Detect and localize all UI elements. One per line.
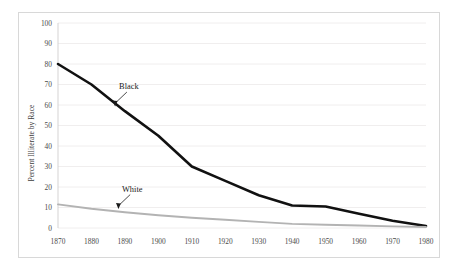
gridlines-group (58, 23, 426, 228)
x-tick-label-1900: 1900 (151, 237, 166, 246)
x-tick-label-1960: 1960 (352, 237, 367, 246)
y-tick-label-90: 90 (45, 39, 53, 48)
x-tick-label-1880: 1880 (84, 237, 99, 246)
series-line-black (58, 64, 426, 226)
x-tick-label-1920: 1920 (218, 237, 233, 246)
y-tick-label-40: 40 (45, 142, 53, 151)
y-tick-label-100: 100 (41, 19, 52, 28)
y-tick-label-30: 30 (45, 162, 53, 171)
x-tick-label-1890: 1890 (118, 237, 133, 246)
series-annotations-group: BlackWhite (113, 82, 143, 209)
x-axis-tick-labels: 1870188018901900191019201930194019501960… (51, 237, 434, 246)
x-tick-label-1870: 1870 (51, 237, 66, 246)
annotation-label-black: Black (119, 82, 139, 91)
y-tick-label-60: 60 (45, 101, 53, 110)
figure-container: 0102030405060708090100 18701880189019001… (0, 0, 456, 276)
x-tick-label-1950: 1950 (318, 237, 333, 246)
x-tick-label-1910: 1910 (184, 237, 199, 246)
annotation-arrow-line-black (116, 92, 127, 102)
y-tick-label-50: 50 (45, 121, 53, 130)
y-axis-title: Percent Illiterate by Race (27, 104, 36, 182)
illiteracy-by-race-line-chart: 0102030405060708090100 18701880189019001… (19, 13, 439, 257)
y-tick-label-80: 80 (45, 60, 53, 69)
x-tick-label-1940: 1940 (285, 237, 300, 246)
y-tick-label-10: 10 (45, 203, 53, 212)
data-series-group (58, 64, 426, 227)
y-axis-tick-labels: 0102030405060708090100 (41, 19, 52, 233)
y-tick-label-0: 0 (48, 224, 52, 233)
x-tick-label-1980: 1980 (419, 237, 434, 246)
chart-frame: 0102030405060708090100 18701880189019001… (18, 12, 440, 258)
x-tick-label-1970: 1970 (385, 237, 400, 246)
annotation-arrow-line-white (120, 195, 131, 205)
annotation-arrow-head-white (116, 203, 121, 209)
y-tick-label-70: 70 (45, 80, 53, 89)
annotation-label-white: White (122, 185, 143, 194)
x-tick-label-1930: 1930 (251, 237, 266, 246)
y-tick-label-20: 20 (45, 183, 53, 192)
